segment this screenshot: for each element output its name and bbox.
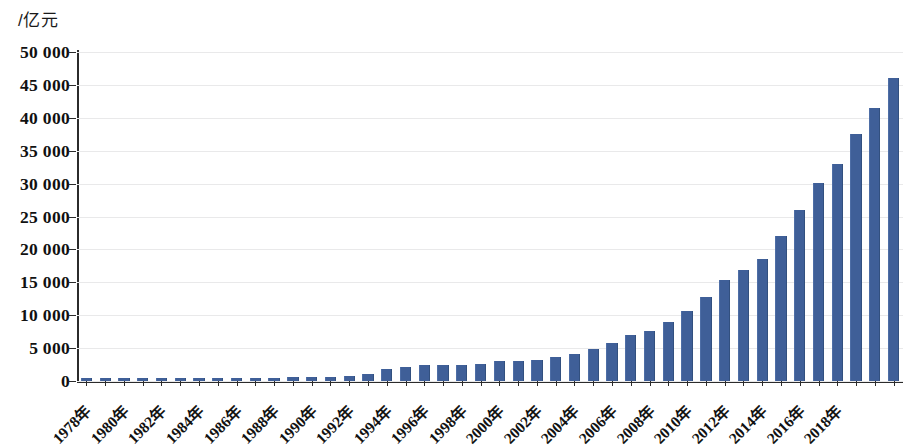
y-axis-tick — [69, 381, 76, 382]
x-axis-tick-label: 1988年 — [235, 399, 284, 446]
bar — [419, 365, 430, 381]
y-axis-tick — [69, 315, 76, 316]
y-axis-tick — [69, 85, 76, 86]
x-axis-tick-label: 2012年 — [685, 399, 734, 446]
gridline — [77, 52, 903, 53]
gridline — [77, 85, 903, 86]
bar — [681, 311, 692, 381]
gridline — [77, 217, 903, 218]
x-axis-tick-label: 2018年 — [798, 399, 847, 446]
bar — [362, 374, 373, 381]
x-axis-tick-label: 1986年 — [197, 399, 246, 446]
y-axis-tick-label: 25 000 — [20, 206, 70, 227]
bar — [663, 322, 674, 381]
x-axis-tick-label: 2004年 — [535, 399, 584, 446]
bar — [757, 259, 768, 381]
y-axis-tick — [69, 348, 76, 349]
bar — [550, 357, 561, 381]
x-axis-tick-label: 2000年 — [460, 399, 509, 446]
plot-area — [77, 52, 903, 381]
bar — [494, 361, 505, 381]
y-axis-tick-label: 15 000 — [20, 272, 70, 293]
bar — [625, 335, 636, 381]
x-axis-tick-label: 1980年 — [84, 399, 133, 446]
x-axis-tick-label: 1984年 — [159, 399, 208, 446]
x-axis-tick-label: 1982年 — [122, 399, 171, 446]
bar — [775, 236, 786, 381]
y-axis-tick — [69, 249, 76, 250]
x-axis-tick-label: 2014年 — [723, 399, 772, 446]
bar-chart: /亿元 05 00010 00015 00020 00025 00030 000… — [0, 0, 912, 446]
y-axis-tick — [69, 118, 76, 119]
y-axis-tick — [69, 52, 76, 53]
bar — [794, 210, 805, 381]
y-axis-tick-labels: 05 00010 00015 00020 00025 00030 00035 0… — [0, 52, 70, 381]
bar — [869, 108, 880, 381]
bar — [437, 365, 448, 381]
gridline — [77, 381, 903, 382]
bar — [719, 280, 730, 381]
y-axis-tick-label: 30 000 — [20, 173, 70, 194]
bar — [381, 369, 392, 381]
x-axis-tick-label: 2008年 — [610, 399, 659, 446]
bar — [832, 164, 843, 381]
y-axis-tick — [69, 282, 76, 283]
bar — [475, 364, 486, 381]
x-axis-tick-label: 1994年 — [347, 399, 396, 446]
bar — [850, 134, 861, 381]
gridline — [77, 118, 903, 119]
bar — [738, 270, 749, 381]
x-axis-tick-label: 2006年 — [572, 399, 621, 446]
y-axis-tick-label: 20 000 — [20, 239, 70, 260]
y-axis-tick-label: 10 000 — [20, 305, 70, 326]
x-axis-tick-label: 2010年 — [648, 399, 697, 446]
x-axis-tick-label: 2016年 — [760, 399, 809, 446]
bar — [400, 367, 411, 381]
bar — [888, 78, 899, 381]
y-axis-unit-label: /亿元 — [18, 6, 58, 31]
x-axis-tick-label: 1996年 — [385, 399, 434, 446]
bar — [513, 361, 524, 381]
bar — [606, 343, 617, 381]
y-axis-tick-label: 50 000 — [20, 42, 70, 63]
bar — [813, 183, 824, 381]
y-axis-tick-label: 5 000 — [29, 338, 70, 359]
y-axis-tick — [69, 151, 76, 152]
gridline — [77, 184, 903, 185]
bar — [700, 297, 711, 381]
gridline — [77, 151, 903, 152]
y-axis-tick — [69, 217, 76, 218]
x-axis-tick-label: 1992年 — [310, 399, 359, 446]
y-axis-tick — [69, 184, 76, 185]
bar — [531, 360, 542, 381]
x-axis-tick-label: 1998年 — [422, 399, 471, 446]
bar — [569, 354, 580, 381]
y-axis-tick-label: 35 000 — [20, 140, 70, 161]
y-axis-tick-label: 40 000 — [20, 107, 70, 128]
x-axis-tick-labels: 1978年1980年1982年1984年1986年1988年1990年1992年… — [0, 384, 912, 446]
y-axis-tick-label: 45 000 — [20, 74, 70, 95]
x-axis-tick-label: 1990年 — [272, 399, 321, 446]
bar — [456, 365, 467, 381]
x-axis-tick-label: 1978年 — [47, 399, 96, 446]
x-axis-tick-label: 2002年 — [497, 399, 546, 446]
bar — [644, 331, 655, 381]
bar — [588, 349, 599, 381]
